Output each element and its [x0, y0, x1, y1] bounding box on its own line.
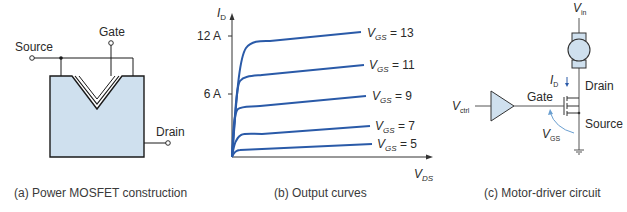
drain-label: Drain [156, 125, 185, 139]
curve-vgs-5 [232, 144, 372, 157]
caption-c: (c) Motor-driver circuit [484, 186, 601, 200]
motor-icon [568, 33, 590, 68]
x-axis-arrow-icon [426, 155, 433, 160]
drain-label-c: Drain [585, 79, 614, 93]
label-vgs-11: VGS = 11 [369, 58, 415, 74]
junction-dot [59, 56, 63, 60]
curve-vgs-7 [232, 126, 370, 157]
vgs-label: VGS [542, 127, 560, 142]
gate-label: Gate [99, 25, 125, 39]
y-axis-label: ID [217, 6, 226, 22]
curve-vgs-11 [232, 65, 364, 157]
vctrl-label: Vctrl [452, 99, 470, 114]
source-label: Source [15, 40, 53, 54]
figure-canvas: Source Gate Drain (a) Power MOSFET const… [0, 0, 627, 212]
label-vgs-13: VGS = 13 [367, 26, 414, 42]
source-terminal [30, 56, 35, 61]
y-tick-6a: 6 A [204, 87, 221, 101]
id-label: ID [550, 73, 558, 88]
label-vgs-7: VGS = 7 [375, 119, 415, 135]
panel-a-mosfet-construction: Source Gate Drain (a) Power MOSFET const… [14, 25, 187, 200]
x-axis-label: VDS [414, 167, 434, 183]
y-tick-12a: 12 A [197, 29, 221, 43]
gate-label-c: Gate [527, 90, 553, 104]
label-vgs-9: VGS = 9 [372, 89, 412, 105]
vin-label: Vin [573, 1, 587, 16]
source-label-c: Source [585, 117, 623, 131]
source-junction [578, 112, 581, 115]
vgs-arc [550, 112, 574, 133]
mosfet-body [50, 76, 144, 157]
mosfet-symbol [564, 96, 579, 116]
curve-vgs-13 [232, 32, 361, 157]
drain-terminal [166, 141, 171, 146]
id-arrow-icon [565, 83, 569, 87]
caption-a: (a) Power MOSFET construction [14, 186, 187, 200]
panel-b-output-curves: 12 A 6 A ID VDS VGS = 13 VGS = 11 VGS = … [197, 6, 434, 200]
ground-icon [574, 150, 584, 154]
y-axis-arrow-icon [230, 13, 235, 20]
vgs-arrow-icon [548, 109, 553, 115]
caption-b: (b) Output curves [274, 186, 367, 200]
label-vgs-5: VGS = 5 [377, 137, 417, 153]
curves [232, 32, 372, 157]
panel-c-motor-driver: Vin ID Drain Source Gate [452, 1, 623, 200]
figure: Source Gate Drain (a) Power MOSFET const… [0, 0, 627, 212]
gate-terminal [109, 41, 114, 46]
gate-driver-buffer-icon [491, 91, 514, 121]
